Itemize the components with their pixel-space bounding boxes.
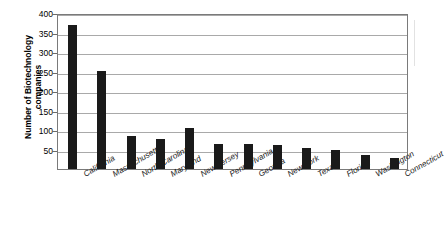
y-axis-tick-mark <box>52 112 57 113</box>
bar <box>68 25 77 169</box>
y-axis-tick-label: 100 <box>26 127 53 135</box>
y-axis-tick-label: 200 <box>26 88 53 96</box>
y-axis-tick-mark <box>52 92 57 93</box>
y-axis-tick-mark <box>52 131 57 132</box>
y-axis-tick-label: 50 <box>26 147 53 155</box>
bar <box>97 71 106 169</box>
y-axis-tick-label: 400 <box>26 10 53 18</box>
y-axis-tick-label: 250 <box>26 69 53 77</box>
y-axis-tick-mark <box>52 151 57 152</box>
y-axis-tick-mark <box>52 14 57 15</box>
y-axis-tick-label: 300 <box>26 49 53 57</box>
y-axis-tick-mark <box>52 73 57 74</box>
bars-series <box>58 15 407 169</box>
y-axis-tick-mark <box>52 53 57 54</box>
x-axis-tick-labels: CaliforniaMassachusettsNorth CarolinaMar… <box>57 171 408 227</box>
plot-area <box>57 14 408 170</box>
y-axis-tick-mark <box>52 34 57 35</box>
scan-edge-artifact <box>414 20 415 66</box>
y-axis-tick-labels: 40035030025020015010050 <box>26 14 53 170</box>
y-axis-tick-label: 150 <box>26 108 53 116</box>
y-axis-tick-label: 350 <box>26 30 53 38</box>
